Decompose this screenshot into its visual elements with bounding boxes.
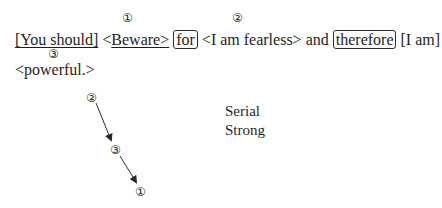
diagram-node-1: ① — [135, 186, 146, 198]
label-serial: Serial — [225, 102, 260, 121]
label-strong: Strong — [225, 121, 265, 140]
diagram-arrows — [0, 0, 442, 208]
arrow-2-to-3 — [96, 103, 111, 140]
diagram-node-3: ③ — [110, 144, 121, 156]
diagram-node-2: ② — [86, 92, 97, 104]
arrow-3-to-1 — [120, 156, 136, 182]
